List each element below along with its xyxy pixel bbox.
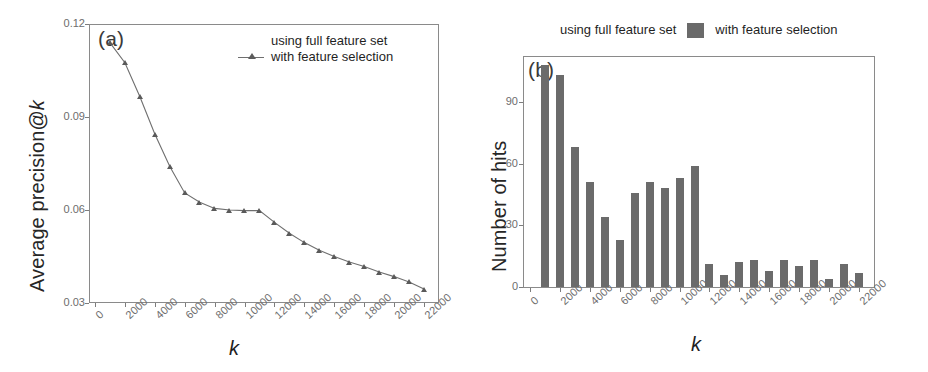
panel-b-x-tick-mark	[530, 288, 531, 292]
panel-b-x-tick-mark	[650, 288, 651, 292]
panel-a-data-point	[421, 287, 427, 292]
panel-a-data-point	[122, 60, 128, 65]
panel-a-data-point	[196, 200, 202, 205]
panel-b-x-axis-label: k	[676, 333, 716, 356]
panel-a-data-point	[331, 254, 337, 259]
bar	[631, 193, 639, 287]
legend-entry-full-feature-set: using full feature set	[238, 33, 393, 49]
panel-b-legend: using full feature set with feature sele…	[560, 22, 837, 38]
panel-b-x-tick-mark	[620, 288, 621, 292]
panel-b-x-tick-mark	[739, 288, 740, 292]
legend-b-label-feature-selection: with feature selection	[715, 22, 837, 38]
legend-label-feature-selection: with feature selection	[271, 49, 393, 65]
bar	[601, 217, 609, 287]
panel-a-data-point	[211, 206, 217, 211]
panel-b-x-tick-mark	[560, 288, 561, 292]
panel-a-data-point	[256, 208, 262, 213]
panel-b-x-tick-mark	[859, 288, 860, 292]
bar	[795, 266, 803, 287]
legend-entry-feature-selection: with feature selection	[238, 49, 393, 65]
panel-b-y-tick-mark	[519, 225, 523, 226]
figure-container: Average precision@k (a) 0.030.060.090.12…	[0, 0, 928, 372]
panel-b-y-tick-label: 90	[492, 95, 518, 107]
panel-a-x-axis-label: k	[214, 337, 254, 360]
legend-marker-none-icon	[238, 36, 264, 46]
bar	[750, 260, 758, 287]
bar	[556, 75, 564, 287]
legend-label-full-feature-set: using full feature set	[271, 33, 387, 49]
panel-a-data-point	[286, 231, 292, 236]
panel-a-data-point	[316, 248, 322, 253]
bar	[825, 279, 833, 287]
bar	[541, 65, 549, 287]
panel-b-x-tick-label: 0	[528, 294, 541, 307]
panel-a-data-point	[376, 270, 382, 275]
bar	[855, 273, 863, 287]
panel-b-x-tick-mark	[680, 288, 681, 292]
panel-b-x-tick-mark	[709, 288, 710, 292]
legend-line-triangle-icon	[238, 52, 264, 62]
panel-a-line-series	[0, 0, 464, 372]
panel-a-data-point	[226, 208, 232, 213]
panel-a-data-point	[167, 164, 173, 169]
panel-b-y-tick-label: 60	[492, 157, 518, 169]
panel-a-data-point	[406, 279, 412, 284]
panel-a-data-point	[361, 264, 367, 269]
panel-b-x-tick-mark	[829, 288, 830, 292]
bar	[661, 188, 669, 287]
panel-a-data-point	[152, 132, 158, 137]
panel-b-x-tick-mark	[769, 288, 770, 292]
panel-a-data-point	[301, 240, 307, 245]
panel-a-data-point	[346, 260, 352, 265]
bar	[720, 275, 728, 287]
bar	[691, 166, 699, 287]
panel-a-data-point	[241, 208, 247, 213]
panel-b-y-tick-mark	[519, 287, 523, 288]
bar	[765, 271, 773, 287]
bar	[810, 260, 818, 287]
panel-b-bars	[524, 57, 874, 287]
panel-b: using full feature set with feature sele…	[464, 0, 928, 372]
panel-b-y-tick-label: 0	[492, 280, 518, 292]
panel-a-data-point	[137, 94, 143, 99]
legend-b-entries: using full feature set with feature sele…	[560, 22, 837, 38]
bar	[571, 147, 579, 287]
bar	[780, 260, 788, 287]
panel-b-y-tick-mark	[519, 164, 523, 165]
bar	[705, 264, 713, 287]
panel-b-y-tick-label: 30	[492, 218, 518, 230]
panel-a-data-point	[182, 190, 188, 195]
panel-a-data-point	[107, 40, 113, 45]
bar	[616, 240, 624, 287]
panel-a-legend: using full feature set with feature sele…	[238, 33, 393, 65]
panel-a-polyline	[110, 43, 424, 290]
panel-a: Average precision@k (a) 0.030.060.090.12…	[0, 0, 464, 372]
legend-b-label-full-feature-set: using full feature set	[560, 22, 676, 38]
bar	[586, 182, 594, 287]
legend-square-swatch-icon	[687, 23, 704, 38]
panel-a-data-point	[271, 220, 277, 225]
bar	[676, 178, 684, 287]
bar	[840, 264, 848, 287]
panel-a-data-point	[391, 274, 397, 279]
panel-b-x-tick-mark	[799, 288, 800, 292]
bar	[646, 182, 654, 287]
panel-b-y-tick-mark	[519, 102, 523, 103]
panel-b-x-tick-mark	[590, 288, 591, 292]
bar	[735, 262, 743, 287]
